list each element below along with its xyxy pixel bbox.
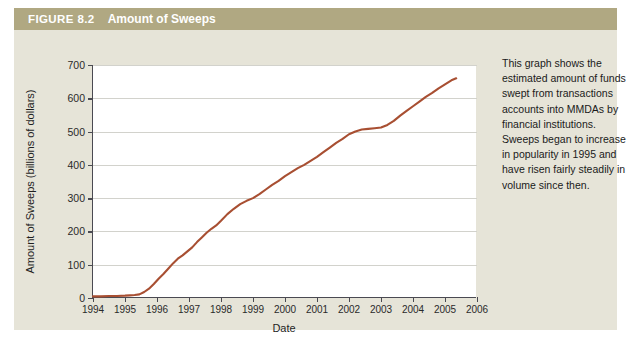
plot-frame: 0100200300400500600700 19941995199619971…	[92, 65, 476, 298]
series-path	[93, 78, 456, 296]
figure-caption: This graph shows the estimated amount of…	[502, 56, 626, 193]
y-axis-title: Amount of Sweeps (billions of dollars)	[22, 65, 38, 298]
x-tick-label: 2000	[274, 304, 296, 315]
chart-area: Amount of Sweeps (billions of dollars) 0…	[14, 30, 484, 330]
x-tick-label: 2003	[370, 304, 392, 315]
x-tick-label: 1996	[146, 304, 168, 315]
x-tick-mark	[477, 297, 478, 302]
y-tick-label: 500	[67, 126, 85, 138]
y-tick-label: 400	[67, 159, 85, 171]
y-tick-label: 100	[67, 259, 85, 271]
y-tick-label: 700	[67, 59, 85, 71]
y-tick-label: 200	[67, 225, 85, 237]
x-tick-label: 2002	[338, 304, 360, 315]
x-tick-label: 2001	[306, 304, 328, 315]
series-line-sweeps	[93, 65, 477, 298]
figure-title: Amount of Sweeps	[108, 12, 216, 26]
x-tick-label: 2004	[402, 304, 424, 315]
y-tick-label: 0	[79, 292, 85, 304]
figure-header: FIGURE 8.2 Amount of Sweeps	[14, 8, 617, 30]
x-axis-title: Date	[92, 322, 476, 334]
figure-number: FIGURE 8.2	[28, 13, 95, 25]
x-tick-label: 1997	[178, 304, 200, 315]
figure-panel: FIGURE 8.2 Amount of Sweeps Amount of Sw…	[14, 8, 617, 330]
y-tick-label: 600	[67, 92, 85, 104]
x-tick-label: 2006	[466, 304, 488, 315]
x-tick-label: 2005	[434, 304, 456, 315]
y-tick-label: 300	[67, 192, 85, 204]
x-tick-label: 1994	[82, 304, 104, 315]
x-tick-label: 1995	[114, 304, 136, 315]
x-tick-label: 1999	[242, 304, 264, 315]
x-tick-label: 1998	[210, 304, 232, 315]
